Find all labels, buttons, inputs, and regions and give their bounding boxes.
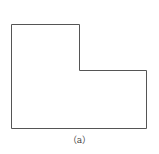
figure-caption: （a） <box>0 133 159 146</box>
l-shape-diagram <box>0 0 159 154</box>
l-shaped-polygon <box>12 25 147 129</box>
